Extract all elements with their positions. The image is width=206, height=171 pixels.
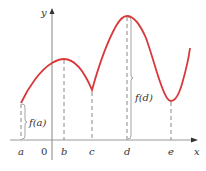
origin-label: 0 xyxy=(41,146,47,157)
x-axis-label: x xyxy=(194,146,200,157)
tick-c: c xyxy=(89,146,95,157)
brace-fa xyxy=(22,104,27,139)
tick-a: a xyxy=(18,146,24,157)
y-axis: y xyxy=(40,7,55,160)
fa-label: f(a) xyxy=(28,117,47,128)
fd-label: f(d) xyxy=(134,92,153,103)
brace-fd xyxy=(128,17,133,139)
tick-e: e xyxy=(168,146,174,157)
function-graph: y x 0 f(a) f(d) a b c d e xyxy=(0,0,206,171)
y-axis-label: y xyxy=(40,7,47,18)
y-axis-arrow-icon xyxy=(50,8,55,14)
tick-d: d xyxy=(124,146,130,157)
x-axis-arrow-icon xyxy=(191,138,198,143)
function-curve xyxy=(21,16,190,103)
tick-b: b xyxy=(61,146,67,157)
